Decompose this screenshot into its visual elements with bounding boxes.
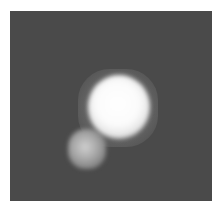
secondary-blob bbox=[68, 129, 106, 169]
bright-blob bbox=[88, 75, 150, 139]
image-frame bbox=[10, 11, 212, 201]
